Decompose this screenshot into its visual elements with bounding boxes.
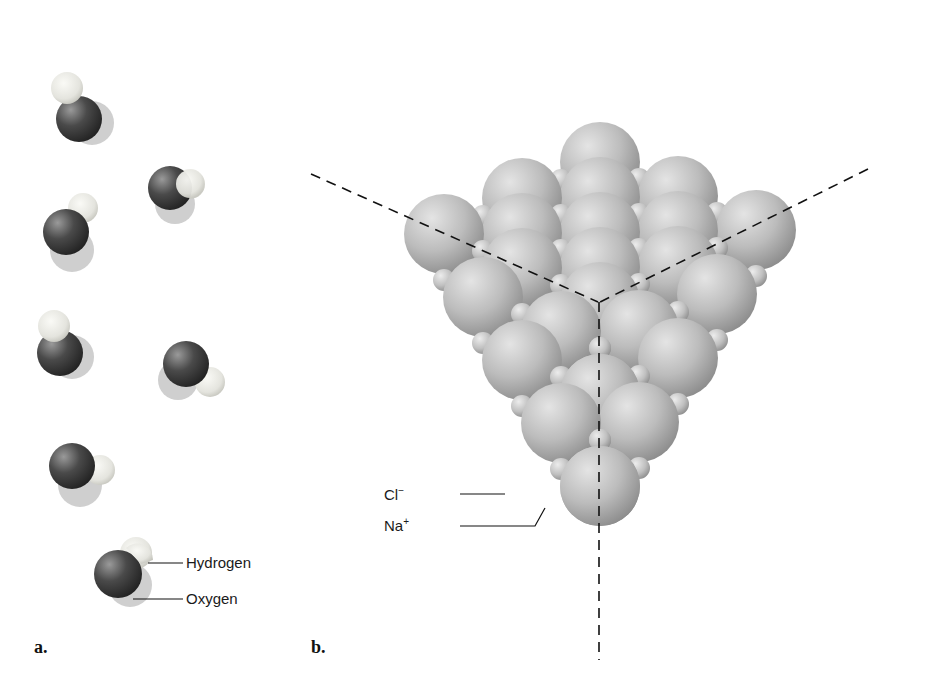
water-molecules — [37, 72, 225, 607]
water-molecule-icon — [51, 72, 114, 145]
nacl-crystal-lattice — [404, 122, 796, 526]
sodium-charge: + — [403, 516, 409, 527]
figure-canvas — [0, 0, 937, 685]
chloride-ion-icon — [560, 446, 640, 526]
sodium-symbol: Na — [384, 517, 403, 534]
water-molecule-icon — [148, 166, 205, 224]
chloride-charge: − — [398, 485, 404, 496]
panel-b-letter: b. — [311, 638, 326, 656]
hydrogen-label: Hydrogen — [186, 555, 251, 570]
water-molecule-icon — [158, 341, 225, 400]
sodium-label: Na+ — [384, 517, 409, 533]
oxygen-label: Oxygen — [186, 591, 238, 606]
water-molecule-icon — [37, 310, 94, 379]
chloride-label: Cl− — [384, 486, 404, 502]
water-molecule-icon — [43, 193, 98, 272]
water-molecule-labelled-icon — [94, 537, 153, 607]
sodium-leader-line — [460, 508, 545, 526]
water-molecule-icon — [49, 443, 115, 507]
chloride-symbol: Cl — [384, 486, 398, 503]
panel-a-letter: a. — [34, 638, 48, 656]
